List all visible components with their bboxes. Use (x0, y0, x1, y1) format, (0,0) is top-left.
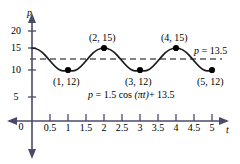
y-tick-label-15: 15 (6, 43, 26, 53)
data-point (209, 67, 215, 73)
data-point (137, 67, 143, 73)
point-label-5-12: (5, 12) (197, 77, 224, 87)
y-axis-label: p (27, 8, 32, 18)
x-axis-ticks (50, 114, 212, 121)
equation-plus: + (149, 89, 155, 100)
y-tick-label-5: 5 (6, 92, 26, 102)
y-tick-label-10: 10 (6, 65, 26, 75)
data-point (65, 67, 71, 73)
point-label-3-12: (3, 12) (125, 77, 152, 87)
point-label-1-12: (1, 12) (53, 77, 80, 87)
y-axis (28, 13, 36, 159)
equation-argument: (πt) (134, 89, 148, 100)
origin-label: 0 (15, 122, 27, 132)
equation-lhs: p (88, 89, 93, 100)
equation-annotation: p = 1.5 cos (πt)+ 13.5 (88, 90, 175, 100)
x-tick-label-5: 5 (200, 123, 224, 133)
x-axis-label: t (226, 125, 229, 135)
equation-offset: 13.5 (157, 89, 175, 100)
data-point (173, 45, 179, 51)
equation-function: cos (119, 89, 132, 100)
point-label-4-15: (4, 15) (161, 33, 188, 43)
y-tick-label-20: 20 (6, 26, 26, 36)
reference-line-label: p = 13.5 (194, 46, 227, 56)
cosine-graph-figure: p t 0 20 15 10 5 0.5 1 1.5 2 2.5 3 3.5 4… (0, 0, 240, 164)
equation-amplitude: 1.5 (104, 89, 117, 100)
equation-equals: = (96, 89, 102, 100)
y-axis-arrow-down (28, 149, 36, 159)
data-point (101, 45, 107, 51)
point-label-2-15: (2, 15) (89, 33, 116, 43)
